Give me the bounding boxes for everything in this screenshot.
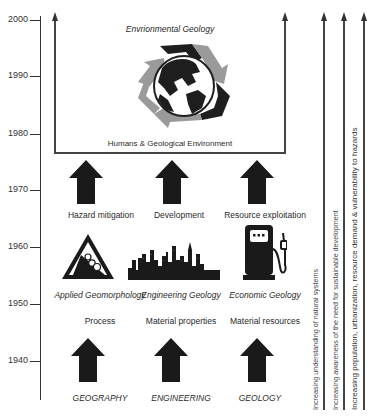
trend-label-awareness: Increasing awareness of the need for sus… — [331, 210, 340, 410]
root-geology: GEOLOGY — [200, 393, 320, 403]
focus-material-resources: Material resources — [205, 316, 325, 326]
trend-arrow-line-1 — [323, 20, 325, 410]
trend-arrow-line-3 — [363, 20, 365, 410]
arrow-up-icon — [154, 338, 188, 382]
tick-label-1990: 1990 — [0, 70, 28, 80]
tick-mark — [30, 247, 40, 248]
box-right-arrow-line — [284, 20, 286, 153]
tick-mark — [30, 20, 40, 21]
box-subtitle: Humans & Geological Environment — [54, 139, 286, 148]
box-title: Envrionmental Geology — [54, 24, 286, 34]
arrow-up-icon — [155, 160, 189, 204]
arrow-up-icon — [341, 12, 347, 21]
trend-label-understanding: Increasing understanding of natural syst… — [311, 269, 320, 410]
fuel-pump-icon — [243, 225, 287, 281]
tick-label-1970: 1970 — [0, 184, 28, 194]
tick-mark — [30, 190, 40, 191]
tick-label-1950: 1950 — [0, 298, 28, 308]
arrow-up-icon — [321, 12, 327, 21]
tick-mark — [30, 134, 40, 135]
tick-label-2000: 2000 — [0, 14, 28, 24]
tick-mark — [30, 76, 40, 77]
box-left-arrow-line — [54, 20, 56, 153]
trend-label-population: Increasing population, urbanization, res… — [350, 128, 359, 410]
timeline-axis-line — [40, 16, 41, 400]
city-skyline-icon — [128, 240, 220, 280]
arrow-up-icon — [71, 338, 105, 382]
box-bottom-line — [54, 152, 286, 154]
arrow-up-icon — [52, 12, 58, 21]
tick-label-1980: 1980 — [0, 128, 28, 138]
arrow-up-icon — [69, 160, 103, 204]
trend-arrow-line-2 — [343, 20, 345, 410]
tick-label-1960: 1960 — [0, 241, 28, 251]
arrow-up-icon — [282, 12, 288, 21]
arrow-up-icon — [240, 338, 274, 382]
arrow-up-icon — [361, 12, 367, 21]
application-label-resource: Resource exploitation — [210, 210, 320, 220]
tick-mark — [30, 304, 40, 305]
falling-rocks-warning-icon — [61, 233, 115, 281]
arrow-up-icon — [240, 160, 274, 204]
discipline-economic-geology: Economic Geology — [205, 290, 325, 300]
tick-label-1940: 1940 — [0, 355, 28, 365]
tick-mark — [30, 361, 40, 362]
recycle-globe-icon — [130, 38, 235, 128]
